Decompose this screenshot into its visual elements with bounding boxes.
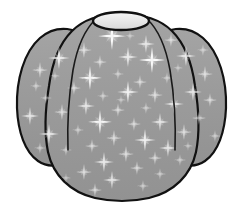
- sweater-illustration: [0, 0, 243, 212]
- illustration-canvas: Sparkly Sweater Gray glittering sweater …: [0, 0, 243, 212]
- collar: [93, 12, 149, 30]
